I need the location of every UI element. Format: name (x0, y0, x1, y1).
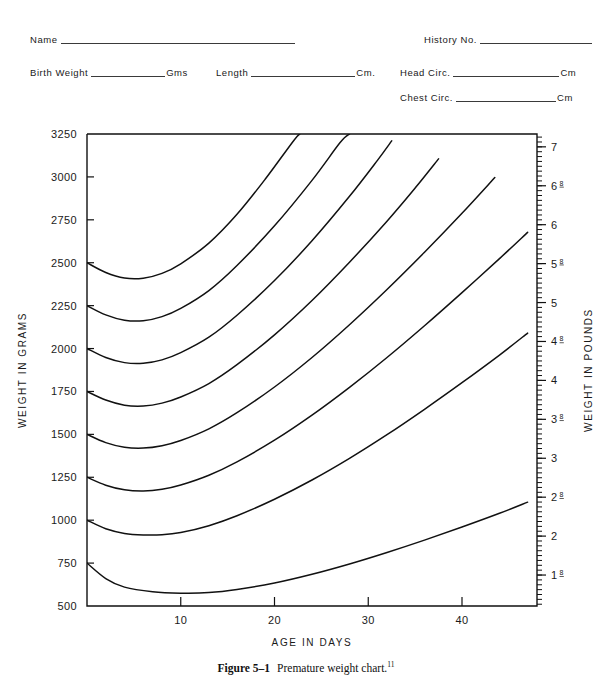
form-input-history-no[interactable] (480, 43, 592, 44)
y-tick-label-grams: 1750 (51, 385, 77, 397)
y-tick-label-grams: 500 (57, 600, 77, 612)
form-unit-head-circ: Cm (560, 67, 576, 78)
x-tick-label: 30 (362, 614, 375, 626)
form-label-name: Name (30, 34, 58, 45)
form-field-chest-circ: Chest Circ.Cm (400, 92, 573, 103)
x-tick-label: 10 (174, 614, 187, 626)
y-tick-label-grams: 1250 (51, 471, 77, 483)
y-tick-label-grams: 3250 (51, 128, 77, 140)
x-tick-label: 40 (455, 614, 468, 626)
form-unit-birth-weight: Gms (166, 67, 188, 78)
y-tick-label-grams: 2000 (51, 343, 77, 355)
form-label-history-no: History No. (424, 34, 477, 45)
form-field-birth-weight: Birth WeightGms (30, 67, 188, 78)
y-axis-title-pounds: WEIGHT IN POUNDS (583, 308, 594, 432)
form-field-history-no: History No. (424, 34, 593, 45)
form-label-birth-weight: Birth Weight (30, 67, 88, 78)
y-tick-label-grams: 2750 (51, 214, 77, 226)
x-tick-label: 20 (268, 614, 281, 626)
y-tick-label-pounds: 68 (551, 180, 564, 192)
growth-curve-1750g (87, 159, 439, 406)
form-input-length[interactable] (251, 76, 355, 77)
figure-number: Figure 5–1 (218, 662, 271, 674)
y-tick-label-pounds: 2 (551, 530, 558, 542)
weight-chart-plot: 5007501000125015001750200022502500275030… (0, 118, 612, 684)
growth-curve-1000g (87, 333, 528, 535)
y-tick-label-pounds: 5 (551, 297, 558, 309)
form-field-head-circ: Head Circ.Cm (400, 67, 576, 78)
y-tick-label-pounds: 28 (551, 491, 564, 503)
figure-caption: Figure 5–1Premature weight chart.11 (0, 660, 612, 674)
growth-curves (87, 134, 528, 593)
figure-caption-text: Premature weight chart. (277, 662, 387, 674)
y-tick-label-pounds: 18 (551, 569, 564, 581)
growth-curve-2000g (87, 141, 392, 364)
y-tick-label-grams: 1500 (51, 428, 77, 440)
form-input-head-circ[interactable] (453, 76, 559, 77)
form-field-name: Name (30, 34, 296, 45)
y-tick-label-grams: 750 (57, 557, 77, 569)
premature-weight-chart-figure: 5007501000125015001750200022502500275030… (0, 118, 612, 684)
figure-footnote-marker: 11 (387, 660, 394, 669)
y-tick-label-grams: 2250 (51, 300, 77, 312)
y-tick-label-pounds: 6 (551, 219, 558, 231)
growth-curve-1500g (87, 178, 495, 449)
form-label-head-circ: Head Circ. (400, 67, 450, 78)
form-input-birth-weight[interactable] (91, 76, 165, 77)
patient-info-form: NameHistory No.Birth WeightGmsLengthCm.H… (0, 0, 612, 118)
x-axis-days: 10203040AGE IN DAYS (174, 597, 468, 648)
y-axis-grams: 5007501000125015001750200022502500275030… (17, 128, 94, 612)
form-input-chest-circ[interactable] (456, 101, 556, 102)
growth-curve-2500g (87, 134, 300, 279)
y-tick-label-grams: 1000 (51, 514, 77, 526)
y-axis-title-grams: WEIGHT IN GRAMS (17, 312, 28, 428)
y-tick-label-grams: 3000 (51, 171, 77, 183)
form-unit-length: Cm. (356, 67, 375, 78)
form-label-chest-circ: Chest Circ. (400, 92, 453, 103)
y-tick-label-grams: 2500 (51, 257, 77, 269)
y-tick-label-pounds: 48 (551, 335, 564, 347)
y-tick-label-pounds: 58 (551, 258, 564, 270)
form-unit-chest-circ: Cm (557, 92, 573, 103)
y-tick-label-pounds: 7 (551, 141, 558, 153)
y-tick-label-pounds: 3 (551, 452, 558, 464)
y-tick-label-pounds: 4 (551, 374, 558, 386)
form-input-name[interactable] (61, 43, 295, 44)
form-label-length: Length (216, 67, 248, 78)
form-field-length: LengthCm. (216, 67, 375, 78)
x-axis-title: AGE IN DAYS (272, 637, 353, 648)
y-tick-label-pounds: 38 (551, 413, 564, 425)
growth-curve-2250g (87, 134, 350, 321)
y-axis-pounds: 182283384485586687WEIGHT IN POUNDS (537, 137, 594, 604)
growth-curve-750g (87, 502, 528, 593)
